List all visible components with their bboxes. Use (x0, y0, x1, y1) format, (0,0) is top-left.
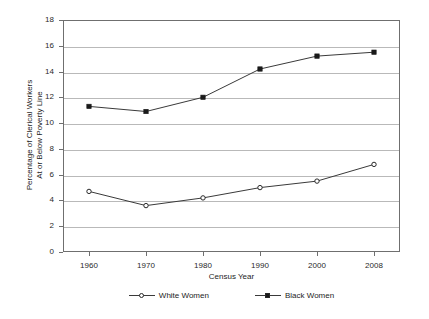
y-tick-label: 16 (45, 42, 54, 50)
y-tick-label: 18 (45, 16, 54, 24)
x-tick-mark (260, 252, 261, 256)
gridlines (64, 21, 399, 251)
chart-container: Percentage of Clerical Workers At or Bel… (0, 0, 429, 319)
legend-item-white-women[interactable]: White Women (129, 291, 209, 300)
y-tick-label: 12 (45, 93, 54, 101)
gridline (64, 176, 399, 177)
x-tick-label: 2008 (365, 262, 383, 270)
y-tick-label: 14 (45, 68, 54, 76)
y-tick-label: 10 (45, 119, 54, 127)
x-tick-label: 1960 (80, 262, 98, 270)
legend-marker-icon (255, 292, 281, 300)
x-axis-title: Census Year (63, 272, 400, 281)
x-tick-mark (89, 252, 90, 256)
x-tick-mark (374, 252, 375, 256)
gridline (64, 124, 399, 125)
legend-label: White Women (159, 291, 209, 300)
x-tick-mark (146, 252, 147, 256)
legend-marker-icon (129, 292, 155, 300)
gridline (64, 73, 399, 74)
x-tick-label: 2000 (308, 262, 326, 270)
x-tick-label: 1980 (194, 262, 212, 270)
y-axis: 181614121086420 (0, 0, 63, 279)
y-tick-label: 4 (50, 196, 54, 204)
legend-item-black-women[interactable]: Black Women (255, 291, 334, 300)
chart-legend: White WomenBlack Women (63, 291, 400, 300)
x-tick-mark (317, 252, 318, 256)
plot-area (63, 20, 400, 252)
gridline (64, 98, 399, 99)
x-tick-label: 1970 (137, 262, 155, 270)
x-tick-mark (203, 252, 204, 256)
x-tick-label: 1990 (251, 262, 269, 270)
y-tick-label: 2 (50, 222, 54, 230)
gridline (64, 201, 399, 202)
gridline (64, 47, 399, 48)
legend-label: Black Women (285, 291, 334, 300)
y-tick-label: 6 (50, 171, 54, 179)
y-tick-label: 8 (50, 145, 54, 153)
gridline (64, 227, 399, 228)
gridline (64, 150, 399, 151)
